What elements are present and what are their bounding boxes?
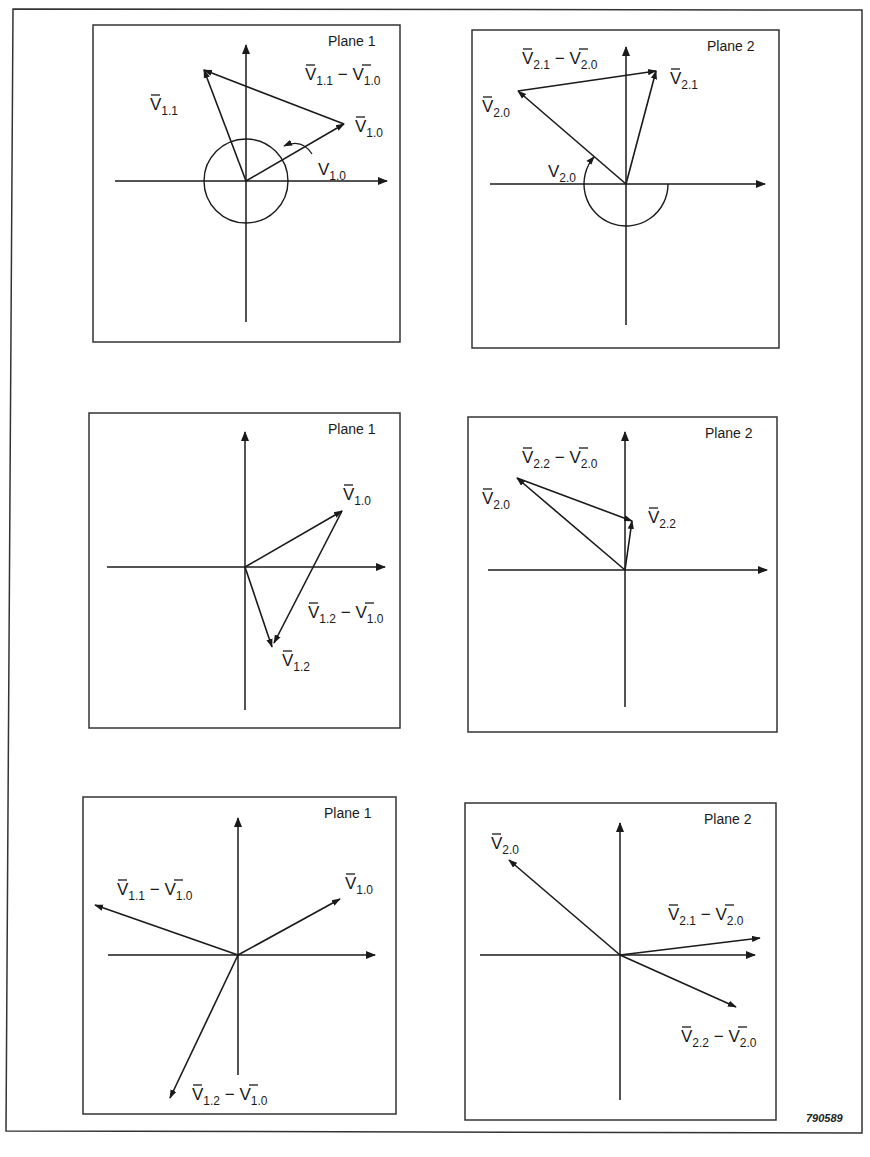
vector-diagram-figure: Plane 1V1.1V1.1 − V1.0V1.0V1.0Plane 2V2.…: [0, 0, 870, 1157]
vector-label: V2.2 − V2.0: [522, 448, 598, 471]
panel-row2-plane1: Plane 1V1.0V1.2 − V1.0V1.2: [89, 413, 400, 728]
panel-row3-plane1: Plane 1V1.1 − V1.0V1.0V1.2 − V1.0: [83, 797, 396, 1114]
plane-title: Plane 2: [704, 811, 752, 827]
vector-v2-2-v2-0: [517, 478, 632, 521]
vector-label: V1.0: [355, 117, 383, 140]
plane-title: Plane 2: [707, 38, 755, 54]
plane-title: Plane 2: [705, 425, 753, 441]
plane-title: Plane 1: [324, 805, 372, 821]
vector-v1-1-v1-0: [95, 905, 238, 955]
vector-label: V1.0: [318, 160, 346, 183]
vector-v1-2: [245, 567, 272, 647]
vector-v1-2-v1-0: [170, 955, 238, 1098]
panel-row2-plane2: Plane 2V2.2 − V2.0V2.0V2.2: [468, 417, 777, 732]
vector-v2-1: [626, 71, 656, 184]
panel-row3-plane2: Plane 2V2.0V2.1 − V2.0V2.2 − V2.0: [465, 803, 776, 1120]
outer-frame: [6, 9, 862, 1133]
vector-label: V2.0: [482, 97, 510, 120]
vector-label: V2.0: [482, 489, 510, 512]
vector-label: V1.1: [150, 95, 178, 118]
vector-label: V1.0: [343, 485, 371, 508]
vector-v2-1-v2-0: [620, 938, 760, 955]
vector-v2-2: [625, 521, 632, 570]
plane-title: Plane 1: [328, 421, 376, 437]
vector-v2-1-v2-0: [518, 71, 656, 91]
vector-label: V1.2 − V1.0: [308, 603, 384, 626]
vector-label: V1.2 − V1.0: [192, 1085, 268, 1108]
vector-label: V2.2 − V2.0: [681, 1027, 757, 1050]
vector-label: V2.0: [548, 162, 576, 185]
vector-v2-0: [509, 860, 620, 955]
panel-row1-plane2: Plane 2V2.1 − V2.0V2.1V2.0V2.0: [472, 30, 779, 348]
vector-label: V1.1 − V1.0: [117, 880, 193, 903]
plane-title: Plane 1: [328, 33, 376, 49]
panel-border: [468, 417, 777, 732]
vector-v1-0: [238, 899, 340, 955]
vector-label: V1.0: [345, 874, 373, 897]
vector-v1-1: [204, 70, 246, 181]
figure-id: 790589: [806, 1112, 844, 1124]
vector-label: V1.1 − V1.0: [305, 65, 381, 88]
vector-label: V2.1 − V2.0: [668, 905, 744, 928]
panel-row1-plane1: Plane 1V1.1V1.1 − V1.0V1.0V1.0: [93, 25, 400, 342]
vector-label: V2.0: [491, 834, 519, 857]
vector-v2-0: [517, 478, 625, 570]
vector-v2-2-v2-0: [620, 955, 736, 1007]
vector-label: V2.1: [670, 69, 698, 92]
vector-label: V1.2: [282, 651, 310, 674]
vector-label: V2.1 − V2.0: [522, 49, 598, 72]
vector-label: V2.2: [648, 508, 676, 531]
